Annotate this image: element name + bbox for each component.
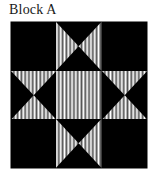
- hourglass-top-bottom: [11, 71, 56, 120]
- unit-middle-left: [11, 71, 56, 120]
- unit-top-right: [102, 22, 147, 71]
- unit-middle-right: [102, 71, 147, 120]
- solid-dark-square: [11, 119, 56, 168]
- hourglass-left-right: [56, 119, 101, 168]
- unit-bottom-center: [56, 119, 101, 168]
- unit-bottom-right: [102, 119, 147, 168]
- quilt-block-diagram: [11, 22, 147, 168]
- striped-center-square: [56, 71, 101, 120]
- hourglass-top-bottom: [102, 71, 147, 120]
- unit-bottom-left: [11, 119, 56, 168]
- unit-top-left: [11, 22, 56, 71]
- page-title: Block A: [9, 1, 57, 18]
- solid-dark-square: [11, 22, 56, 71]
- hourglass-left-right: [56, 22, 101, 71]
- unit-center: [56, 71, 101, 120]
- solid-dark-square: [102, 22, 147, 71]
- unit-top-center: [56, 22, 101, 71]
- solid-dark-square: [102, 119, 147, 168]
